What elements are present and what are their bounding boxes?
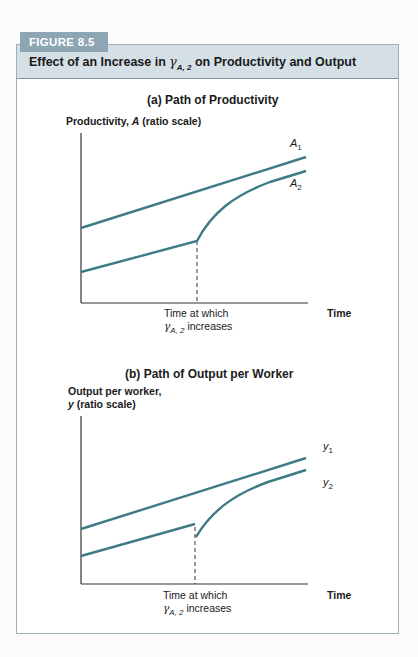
- chart-a-event-label: Time at which γA, 2 increases: [164, 307, 232, 337]
- chart-a-line-A1: [81, 157, 306, 228]
- chart-a-ylabel: Productivity, A (ratio scale): [66, 115, 201, 127]
- chart-b-label-y1: y1: [323, 440, 333, 455]
- chart-b-label-y2: y2: [323, 476, 333, 491]
- chart-b-ylabel: Output per worker, y (ratio scale): [68, 385, 161, 411]
- chart-b-event-label: Time at which γA, 2 increases: [163, 589, 231, 619]
- chart-b-line-y1: [81, 458, 306, 529]
- chart-a-xlabel: Time: [327, 307, 351, 319]
- chart-b-title: (b) Path of Output per Worker: [125, 367, 293, 381]
- chart-b-line-y2: [81, 524, 195, 556]
- chart-a-label-A2: A2: [290, 177, 302, 192]
- chart-a-line-A2: [81, 171, 306, 272]
- chart-b-line-y2-after: [196, 470, 306, 537]
- chart-a-title: (a) Path of Productivity: [147, 93, 278, 107]
- chart-a-label-A1: A1: [290, 137, 302, 152]
- chart-b-xlabel: Time: [327, 589, 351, 601]
